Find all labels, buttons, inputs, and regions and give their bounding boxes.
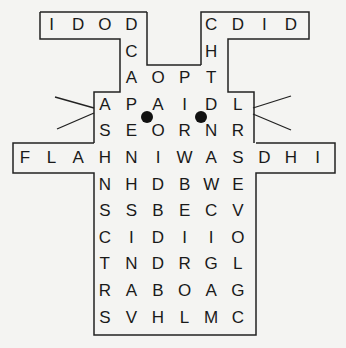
letter-cell[interactable]: C [225, 305, 251, 331]
letter-cell[interactable]: F [12, 145, 38, 171]
letter-cell[interactable]: P [118, 92, 144, 118]
letter-cell[interactable]: H [145, 305, 171, 331]
letter-cell[interactable]: H [198, 39, 224, 65]
letter-cell[interactable]: L [225, 92, 251, 118]
letter-cell[interactable]: T [198, 65, 224, 91]
letter-cell[interactable]: G [198, 251, 224, 277]
letter-cell[interactable]: S [92, 305, 118, 331]
letter-cell[interactable]: P [172, 65, 198, 91]
letter-cell[interactable]: O [92, 12, 118, 38]
letter-cell[interactable]: C [92, 225, 118, 251]
letter-cell[interactable]: N [118, 145, 144, 171]
letter-cell[interactable]: D [145, 251, 171, 277]
letter-cell[interactable]: A [65, 145, 91, 171]
letter-cell[interactable]: D [65, 12, 91, 38]
letter-cell[interactable]: O [172, 278, 198, 304]
letter-cell[interactable]: A [92, 92, 118, 118]
letter-cell[interactable]: I [118, 225, 144, 251]
letter-cell[interactable]: D [145, 225, 171, 251]
letter-cell[interactable]: R [172, 251, 198, 277]
letter-cell[interactable]: O [225, 225, 251, 251]
letter-cell[interactable]: I [305, 145, 331, 171]
letter-cell[interactable]: C [118, 39, 144, 65]
letter-cell[interactable]: N [198, 118, 224, 144]
letter-cell[interactable]: S [118, 198, 144, 224]
letter-cell[interactable]: H [92, 145, 118, 171]
letter-cell[interactable]: A [145, 92, 171, 118]
whisker-left-bottom [57, 113, 94, 129]
letter-cell[interactable]: I [172, 225, 198, 251]
letter-cell[interactable]: A [198, 278, 224, 304]
letter-cell[interactable]: I [198, 225, 224, 251]
letter-cell[interactable]: O [145, 118, 171, 144]
letter-cell[interactable]: I [251, 12, 277, 38]
letter-cell[interactable]: D [198, 92, 224, 118]
letter-cell[interactable]: R [225, 118, 251, 144]
letter-cell[interactable]: L [225, 251, 251, 277]
letter-cell[interactable]: T [92, 251, 118, 277]
letter-cell[interactable]: D [145, 172, 171, 198]
letter-cell[interactable]: D [118, 12, 144, 38]
letter-cell[interactable]: V [118, 305, 144, 331]
letter-cell[interactable]: S [225, 145, 251, 171]
letter-cell[interactable]: I [39, 12, 65, 38]
whisker-left-top [55, 97, 94, 108]
letter-cell[interactable]: D [278, 12, 304, 38]
letter-cell[interactable]: H [118, 172, 144, 198]
letter-cell[interactable]: N [92, 172, 118, 198]
letter-cell[interactable]: I [145, 145, 171, 171]
letter-cell[interactable]: E [225, 172, 251, 198]
whisker-right-bottom [253, 114, 291, 130]
letter-cell[interactable]: E [172, 198, 198, 224]
letter-cell[interactable]: B [172, 172, 198, 198]
letter-cell[interactable]: W [172, 145, 198, 171]
letter-cell[interactable]: E [118, 118, 144, 144]
letter-cell[interactable]: C [198, 198, 224, 224]
letter-cell[interactable]: S [92, 198, 118, 224]
word-search-puzzle: IDODCDIDCHAOPTAPAIDLSEORNRFLAHNIWASDHINH… [0, 0, 346, 348]
letter-cell[interactable]: B [145, 278, 171, 304]
letter-cell[interactable]: L [172, 305, 198, 331]
letter-cell[interactable]: A [118, 65, 144, 91]
letter-cell[interactable]: A [198, 145, 224, 171]
letter-cell[interactable]: O [145, 65, 171, 91]
letter-cell[interactable]: L [39, 145, 65, 171]
letter-cell[interactable]: N [118, 251, 144, 277]
letter-cell[interactable]: G [225, 278, 251, 304]
whisker-right-top [253, 96, 291, 108]
letter-cell[interactable]: R [172, 118, 198, 144]
letter-cell[interactable]: I [172, 92, 198, 118]
letter-cell[interactable]: R [92, 278, 118, 304]
letter-cell[interactable]: M [198, 305, 224, 331]
letter-cell[interactable]: D [251, 145, 277, 171]
letter-cell[interactable]: W [198, 172, 224, 198]
letter-cell[interactable]: A [118, 278, 144, 304]
letter-cell[interactable]: C [198, 12, 224, 38]
letter-cell[interactable]: B [145, 198, 171, 224]
letter-cell[interactable]: V [225, 198, 251, 224]
letter-cell[interactable]: H [278, 145, 304, 171]
letter-cell[interactable]: S [92, 118, 118, 144]
letter-cell[interactable]: D [225, 12, 251, 38]
left-ear-inner [147, 12, 201, 65]
